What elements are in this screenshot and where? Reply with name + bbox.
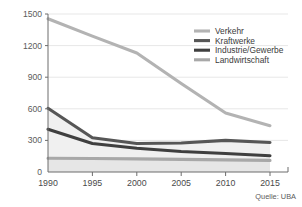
legend-label: Kraftwerke bbox=[215, 36, 255, 46]
y-tick-label: 1200 bbox=[23, 41, 42, 51]
y-tick-label: 600 bbox=[28, 104, 43, 114]
x-tick-label: 2005 bbox=[171, 178, 191, 188]
x-axis-labels: 199019952000200520102015 bbox=[38, 172, 280, 188]
legend-label: Landwirtschaft bbox=[215, 55, 270, 65]
y-axis-labels: 030060090012001500 bbox=[23, 9, 48, 177]
x-tick-label: 1995 bbox=[83, 178, 103, 188]
y-tick-label: 300 bbox=[28, 135, 43, 145]
y-tick-label: 1500 bbox=[23, 9, 42, 19]
x-tick-label: 2000 bbox=[127, 178, 147, 188]
emissions-line-chart: 030060090012001500 199019952000200520102… bbox=[0, 0, 302, 207]
y-tick-label: 900 bbox=[28, 72, 43, 82]
x-tick-label: 1990 bbox=[38, 178, 58, 188]
y-tick-label: 0 bbox=[37, 167, 42, 177]
x-tick-label: 2010 bbox=[216, 178, 236, 188]
chart-canvas: 030060090012001500 199019952000200520102… bbox=[0, 0, 302, 207]
legend-label: Industrie/Gewerbe bbox=[215, 45, 284, 55]
x-tick-label: 2015 bbox=[260, 178, 280, 188]
source-label: Quelle: UBA bbox=[255, 192, 296, 201]
legend-label: Verkehr bbox=[215, 26, 244, 36]
